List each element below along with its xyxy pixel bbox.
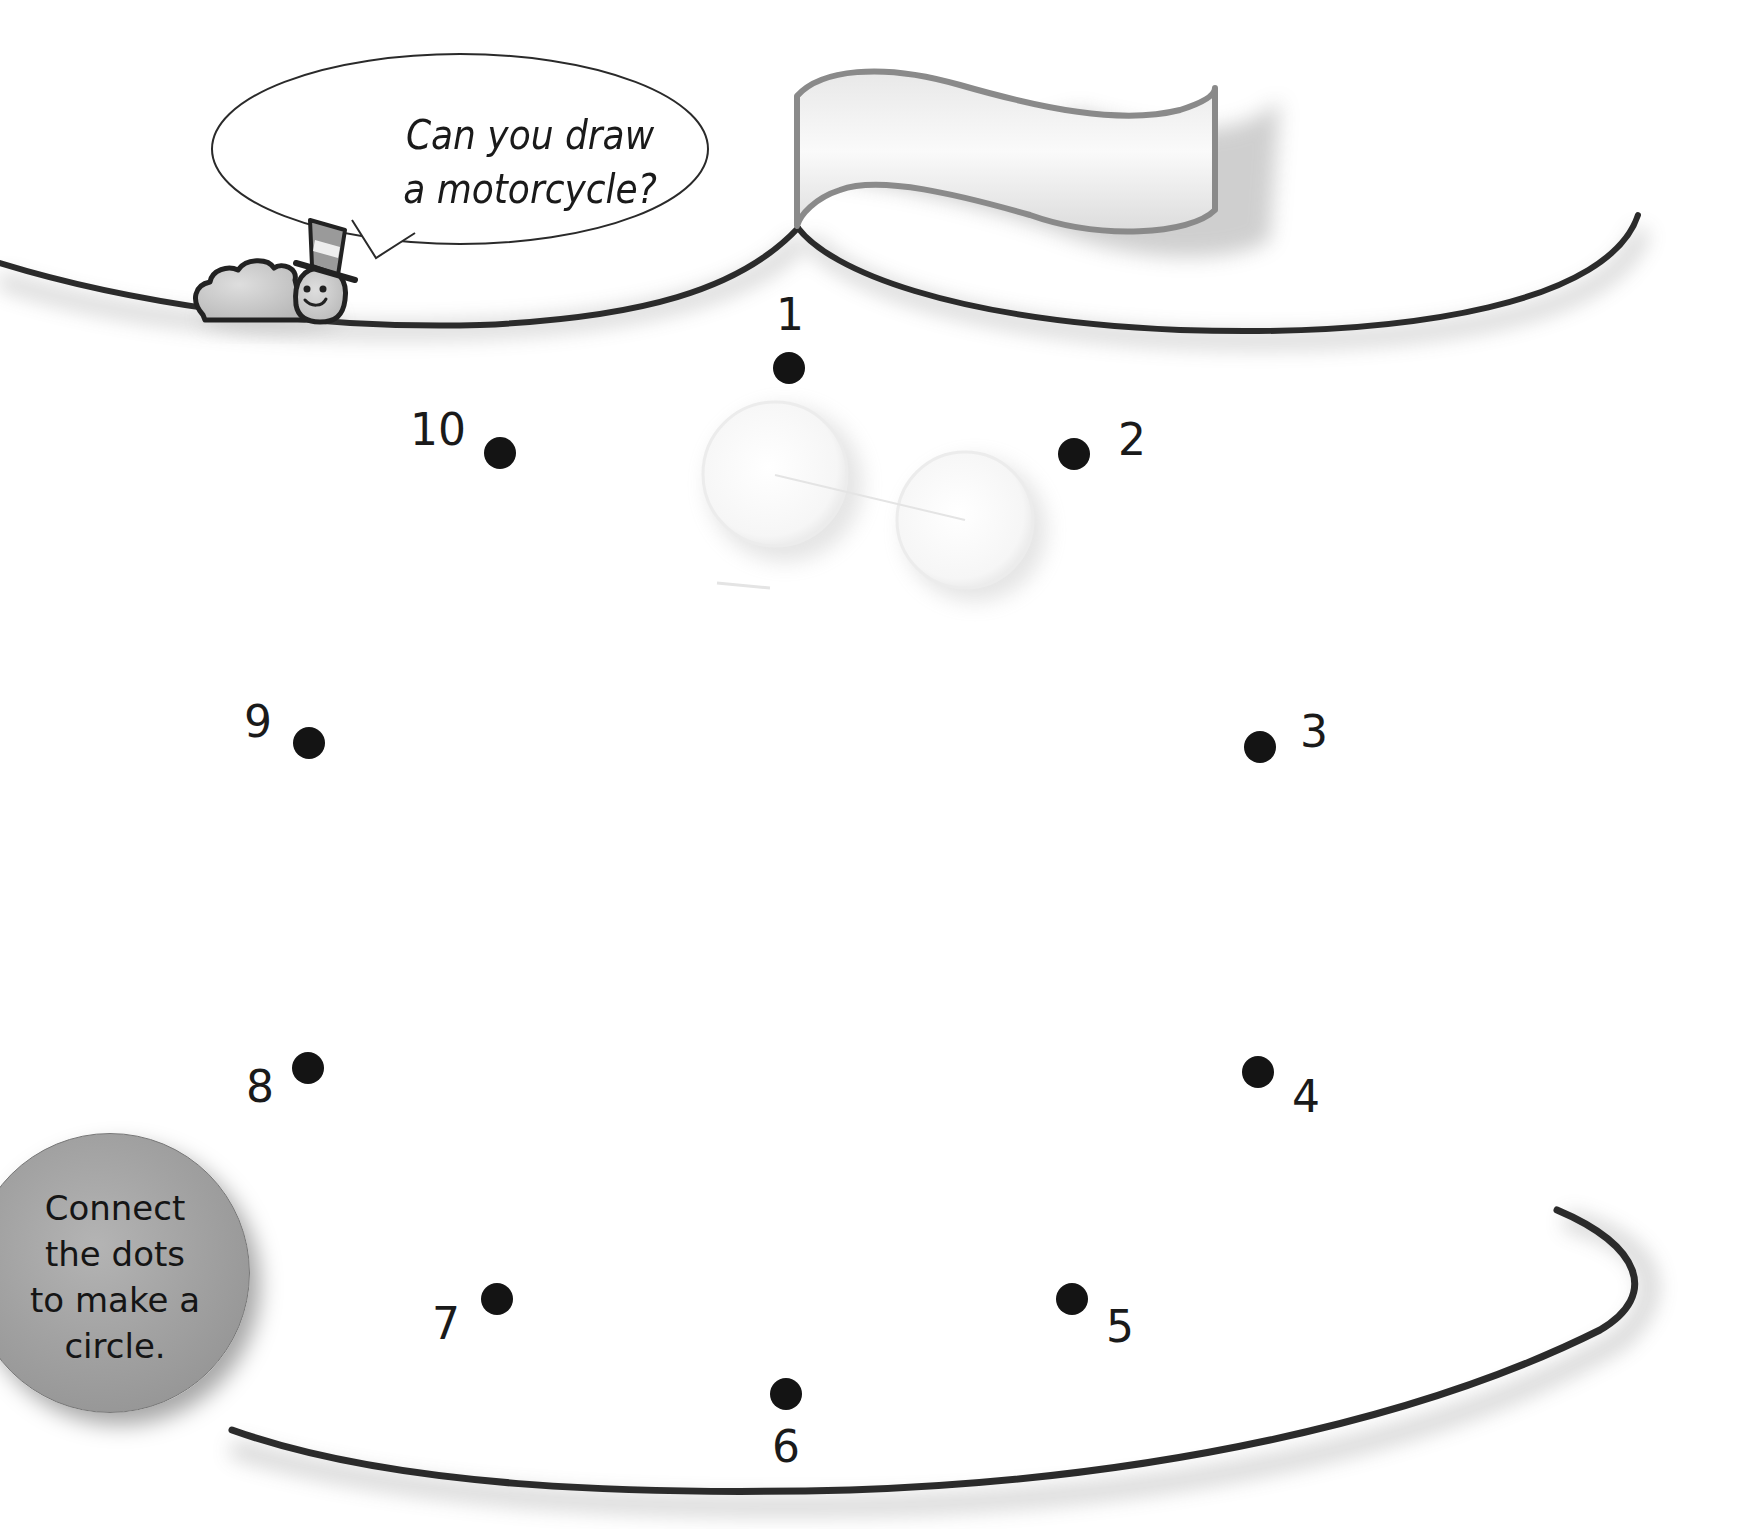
dot-8[interactable] (292, 1052, 324, 1084)
dot-3[interactable] (1244, 731, 1276, 763)
instruction-line-3: to make a (0, 1277, 230, 1323)
dot-label-10: 10 (410, 408, 466, 452)
dot-label-7: 7 (432, 1302, 460, 1346)
dot-label-8: 8 (246, 1065, 274, 1109)
dot-6[interactable] (770, 1378, 802, 1410)
flag-banner (797, 71, 1215, 231)
dot-1[interactable] (773, 352, 805, 384)
dot-label-5: 5 (1106, 1305, 1134, 1349)
caterpillar-mascot (196, 220, 355, 332)
dot-9[interactable] (293, 727, 325, 759)
dot-label-3: 3 (1300, 710, 1328, 754)
speech-bubble-line-2: a motorcycle? (377, 162, 683, 216)
instruction-badge-text: Connect the dots to make a circle. (0, 1185, 230, 1369)
ghost-wheels (703, 402, 1047, 602)
dot-label-4: 4 (1292, 1075, 1320, 1119)
dot-label-6: 6 (772, 1425, 800, 1469)
dot-10[interactable] (484, 437, 516, 469)
dot-7[interactable] (481, 1283, 513, 1315)
dot-label-2: 2 (1118, 418, 1146, 462)
speech-bubble-text: Can you draw a motorcycle? (377, 108, 683, 216)
dot-4[interactable] (1242, 1056, 1274, 1088)
instruction-line-4: circle. (0, 1323, 230, 1369)
dot-5[interactable] (1056, 1283, 1088, 1315)
speech-bubble-line-1: Can you draw (377, 108, 683, 162)
dot-label-9: 9 (244, 700, 272, 744)
dot-label-1: 1 (776, 293, 804, 337)
track-line-bottom (232, 1210, 1635, 1491)
dot-2[interactable] (1058, 438, 1090, 470)
worksheet-page: Can you draw a motorcycle? 1 2 3 4 5 6 7… (0, 0, 1758, 1529)
scene-artwork (0, 0, 1758, 1529)
instruction-line-1: Connect (0, 1185, 230, 1231)
instruction-line-2: the dots (0, 1231, 230, 1277)
